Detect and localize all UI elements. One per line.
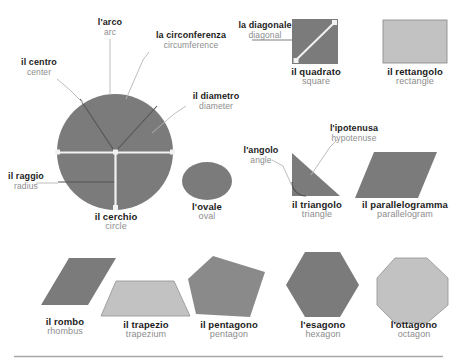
trapezium-shape [101,281,190,316]
callout-radius: il raggio radius [0,172,52,191]
label-pentagon: il pentagono pentagon [189,320,269,340]
diagonal-endpoint-top [332,20,337,25]
label-rhombus: il rombo rhombus [29,317,101,337]
callout-center-english: center [10,68,68,77]
figure-trapezium [101,281,190,316]
label-parallelogram-english: parallelogram [353,210,457,220]
label-rectangle: il rettangolo rectangle [375,67,455,87]
label-octagon: l'ottagono octagon [377,320,451,340]
rectangle-shape [383,20,447,63]
callout-diameter: il diametro diameter [185,92,247,111]
diameter-endpoint-left [55,150,60,155]
diagonal-endpoint-bottom [294,58,299,63]
parallelogram-shape [355,152,437,198]
pentagon-shape [188,256,265,317]
callout-radius-english: radius [0,182,52,191]
figure-hexagon [286,252,359,317]
callout-hypotenuse-english: hypotenuse [323,134,385,143]
label-rectangle-english: rectangle [375,77,455,87]
shapes-layer [0,0,457,364]
callout-center: il centro center [10,58,68,77]
label-trapezium-english: trapezium [110,330,182,340]
figure-rectangle [383,20,447,63]
label-octagon-english: octagon [377,330,451,340]
triangle-shape [292,153,340,196]
figure-rhombus [41,258,116,305]
callout-hypotenuse: l'ipotenusa hypotenuse [323,124,385,143]
figure-triangle [292,153,340,196]
label-triangle-english: triangle [281,210,353,220]
circle-center-marker [113,150,118,155]
label-triangle: il triangolo triangle [281,200,353,220]
leader-circumference [126,52,149,99]
geometry-shapes-diagram: l'arco arc la circonferenza circumferenc… [0,0,457,364]
callout-diameter-english: diameter [185,102,247,111]
callout-diagonal-english: diagonal [231,31,299,40]
label-circle-english: circle [80,222,152,232]
figure-parallelogram [355,152,437,198]
figure-pentagon [188,256,265,317]
label-hexagon-english: hexagon [286,330,360,340]
radius-endpoint-bottom [113,205,118,210]
callout-arc: l'arco arc [82,18,138,37]
rhombus-shape [41,258,116,305]
label-hexagon: l'esagono hexagon [286,320,360,340]
callout-circumference: la circonferenza circumference [144,31,238,50]
callout-diagonal: la diagonale diagonal [231,21,299,40]
label-oval: l'ovale oval [176,202,238,222]
label-pentagon-english: pentagon [189,330,269,340]
leader-hypotenuse [311,140,337,175]
figure-oval [182,162,232,200]
label-trapezium: il trapezio trapezium [110,320,182,340]
label-oval-english: oval [176,212,238,222]
hexagon-shape [286,252,359,317]
oval-shape [182,162,232,200]
callout-arc-english: arc [82,28,138,37]
figure-circle [55,94,175,210]
label-rhombus-english: rhombus [29,327,101,337]
label-square: il quadrato square [283,67,349,87]
leader-center [57,79,84,104]
diameter-endpoint-right [170,150,175,155]
callout-angle: l'angolo angle [237,146,285,165]
label-circle: il cerchio circle [80,212,152,232]
octagon-shape [377,258,448,323]
callout-angle-english: angle [237,156,285,165]
label-square-english: square [283,77,349,87]
figure-octagon [377,258,448,323]
callout-circumference-english: circumference [144,41,238,50]
label-parallelogram: il parallelogramma parallelogram [353,200,457,220]
